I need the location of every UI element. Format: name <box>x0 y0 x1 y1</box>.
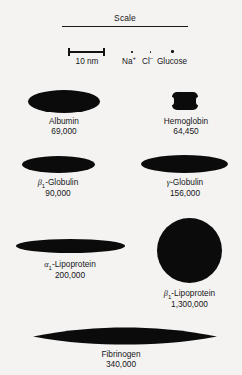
molecule-weight-beta1-lipoprotein: 1,300,000 <box>138 299 241 309</box>
molecule-name-suffix-gamma-globulin: -Globulin <box>170 177 203 187</box>
dot-icon-chloride <box>150 51 152 53</box>
marker-label-glucose: Glucose <box>157 57 187 66</box>
molecule-name-hemoglobin: Hemoglobin <box>140 116 232 126</box>
molecule-weight-alpha1-lipoprotein: 200,000 <box>20 270 120 280</box>
molecule-name-suffix-beta1-lipoprotein: -Lipoprotein <box>171 288 215 298</box>
molecule-shape-albumin <box>28 90 100 113</box>
molecule-shape-gamma-globulin <box>141 155 228 173</box>
molecule-weight-fibrinogen: 340,000 <box>71 359 171 369</box>
molecule-caption-alpha1-lipoprotein: α1-Lipoprotein 200,000 <box>20 259 120 281</box>
molecule-weight-hemoglobin: 64,450 <box>140 126 232 136</box>
molecule-name-gamma-globulin: γ-Globulin <box>137 177 233 188</box>
marker-text-chloride: Cl <box>142 57 150 66</box>
marker-label-chloride: Cl− <box>142 57 153 66</box>
molecule-caption-gamma-globulin: γ-Globulin 156,000 <box>137 177 233 199</box>
molecule-name-albumin: Albumin <box>14 116 114 126</box>
molecule-shape-hemoglobin <box>172 92 198 110</box>
molecule-name-suffix-alpha1-lipoprotein: -Lipoprotein <box>52 259 96 269</box>
scale-bar <box>68 51 105 53</box>
molecule-shape-fibrinogen <box>33 327 217 345</box>
marker-text-sodium: Na <box>122 57 132 66</box>
molecule-shape-beta1-lipoprotein <box>157 218 222 283</box>
molecule-caption-fibrinogen: Fibrinogen 340,000 <box>71 349 171 370</box>
scale-divider <box>62 26 188 27</box>
molecule-caption-beta1-lipoprotein: β1-Lipoprotein 1,300,000 <box>138 288 241 310</box>
molecule-name-alpha1-lipoprotein: α1-Lipoprotein <box>20 259 120 270</box>
molecule-name-beta1-globulin: β1-Globulin <box>8 177 108 188</box>
dot-icon-sodium <box>131 51 133 53</box>
molecule-weight-beta1-globulin: 90,000 <box>8 188 108 198</box>
scale-bar-label: 10 nm <box>59 57 115 66</box>
molecule-name-suffix-beta1-globulin: -Globulin <box>45 177 78 187</box>
molecule-caption-hemoglobin: Hemoglobin 64,450 <box>140 116 232 137</box>
molecule-caption-beta1-globulin: β1-Globulin 90,000 <box>8 177 108 199</box>
plasma-protein-size-diagram: Scale 10 nm Na+ Cl− Glucose Albumin 69,0… <box>0 0 242 375</box>
molecule-weight-albumin: 69,000 <box>14 126 114 136</box>
marker-charge-sodium: + <box>132 55 136 61</box>
molecule-name-fibrinogen: Fibrinogen <box>71 349 171 359</box>
dot-icon-glucose <box>171 50 174 53</box>
molecule-shape-beta1-globulin <box>22 156 95 173</box>
molecule-caption-albumin: Albumin 69,000 <box>14 116 114 137</box>
marker-label-sodium: Na+ <box>122 57 136 66</box>
marker-charge-chloride: − <box>150 55 154 61</box>
molecule-shape-alpha1-lipoprotein <box>16 239 125 253</box>
scale-heading: Scale <box>62 13 188 23</box>
molecule-name-beta1-lipoprotein: β1-Lipoprotein <box>138 288 241 299</box>
molecule-weight-gamma-globulin: 156,000 <box>137 188 233 198</box>
